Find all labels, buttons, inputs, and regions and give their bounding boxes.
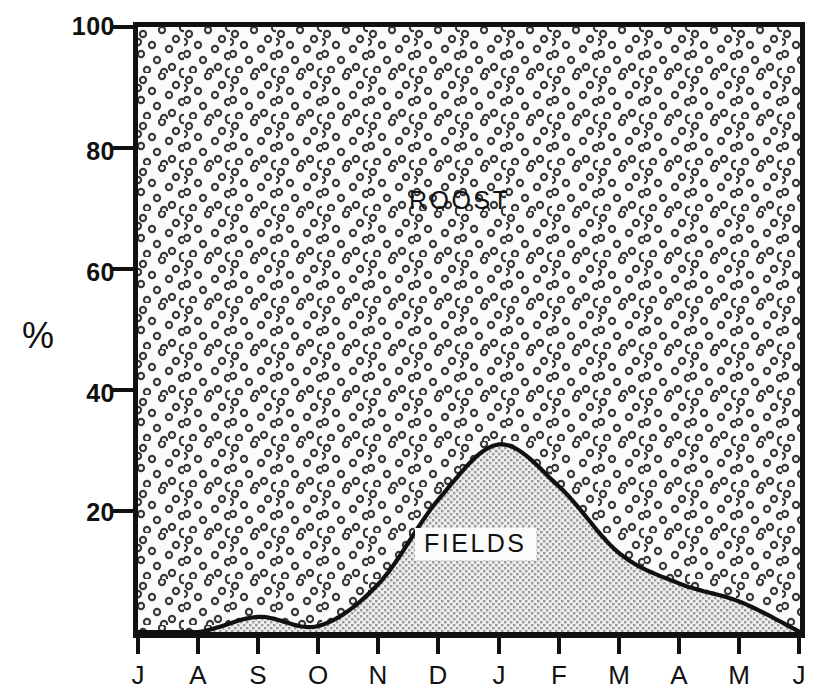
x-tick-2: S (238, 662, 278, 688)
roost-area-label: ROOST (409, 188, 510, 213)
y-tick-100-label: 100 (0, 14, 115, 39)
y-tick-60-label: 60 (0, 260, 115, 285)
x-tick-5: D (418, 662, 458, 688)
x-tick-9: A (659, 662, 699, 688)
x-tick-4: N (358, 662, 398, 688)
x-tick-10: M (719, 662, 759, 688)
x-tick-6: J (479, 662, 519, 688)
x-tick-1: A (178, 662, 218, 688)
fields-area-label: FIELDS (415, 528, 536, 560)
y-tick-40-label: 40 (0, 381, 115, 406)
x-tick-0: J (118, 662, 158, 688)
x-tick-11: J (779, 662, 819, 688)
x-tick-8: M (599, 662, 639, 688)
y-tick-80-label: 80 (0, 139, 115, 164)
y-axis-label: % (22, 315, 54, 357)
y-axis-ticks (112, 0, 142, 700)
x-tick-3: O (298, 662, 338, 688)
x-tick-7: F (539, 662, 579, 688)
y-tick-20-label: 20 (0, 500, 115, 525)
plot-area: ROOST FIELDS (138, 27, 800, 632)
chart-canvas: 100 80 60 40 20 % (0, 0, 825, 700)
